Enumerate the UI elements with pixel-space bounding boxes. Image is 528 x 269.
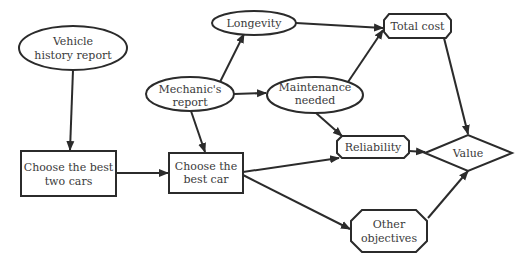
node-label: objectives [361,232,417,245]
node-label: two cars [45,175,93,188]
node-reliability: Reliability [337,136,409,158]
edge-mechanic-to-longevity [220,34,244,82]
node-label: needed [295,94,336,107]
edge-best-car-to-reliability [243,158,339,172]
edge-longevity-to-total-cost [296,23,383,28]
influence-diagram: Vehicle history report Mechanic's report… [0,0,528,269]
node-other-objectives: Other objectives [351,210,427,252]
edge-maintenance-to-reliability [316,113,342,136]
node-longevity: Longevity [212,11,296,35]
edge-maintenance-to-total-cost [348,30,383,82]
node-value: Value [425,135,512,171]
node-label: Total cost [391,20,446,33]
edge-reliability-to-value [409,151,425,152]
edge-best-car-to-other [243,175,350,229]
node-total-cost: Total cost [384,14,451,38]
node-label: report [172,96,208,109]
node-label: Choose the [175,160,237,173]
node-label: history report [34,49,112,62]
node-label: best car [183,173,229,186]
node-label: Reliability [345,141,402,154]
node-label: Maintenance [279,81,352,94]
node-choose-best-two-cars: Choose the best two cars [21,151,116,196]
node-label: Other [373,218,406,231]
edge-history-to-best-two [70,70,73,150]
edge-mechanic-to-best-car [191,111,205,152]
edge-other-to-value [428,171,468,218]
node-vehicle-history-report: Vehicle history report [19,26,127,70]
node-label: Longevity [227,17,283,30]
node-label: Vehicle [52,35,93,48]
node-mechanics-report: Mechanic's report [146,77,234,111]
edge-total-cost-to-value [444,38,468,134]
node-label: Mechanic's [158,83,221,96]
node-label: Value [452,147,484,160]
edge-mechanic-to-maintenance [234,93,266,94]
edges [70,23,468,229]
node-maintenance-needed: Maintenance needed [267,77,363,113]
node-label: Choose the best [24,161,114,174]
node-choose-best-car: Choose the best car [169,153,243,193]
